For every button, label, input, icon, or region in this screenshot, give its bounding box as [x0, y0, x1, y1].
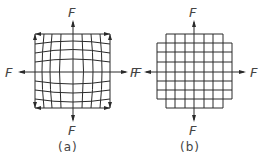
force-label-left: F [5, 65, 13, 80]
panel-b: F F F F (b) [134, 5, 258, 154]
arrow-down-icon [192, 115, 196, 122]
arrow-up-icon [192, 20, 196, 27]
panel-caption-a: (a) [58, 140, 78, 154]
arrow-up-icon [71, 20, 75, 27]
force-label-left: F [134, 65, 142, 80]
force-label-bottom: F [68, 123, 76, 138]
arrow-right-icon [239, 70, 246, 74]
arrow-left-icon [18, 70, 25, 74]
panel-caption-b: (b) [180, 140, 200, 154]
arrow-right-icon [121, 70, 128, 74]
figure-canvas: F F F F (a) [0, 0, 268, 160]
arrow-down-icon [71, 115, 75, 122]
force-label-bottom: F [189, 123, 197, 138]
panel-a: F F F F (a) [5, 5, 138, 154]
force-label-top: F [189, 5, 197, 20]
force-label-right: F [250, 65, 258, 80]
arrow-left-icon [144, 70, 151, 74]
force-label-top: F [68, 5, 76, 20]
